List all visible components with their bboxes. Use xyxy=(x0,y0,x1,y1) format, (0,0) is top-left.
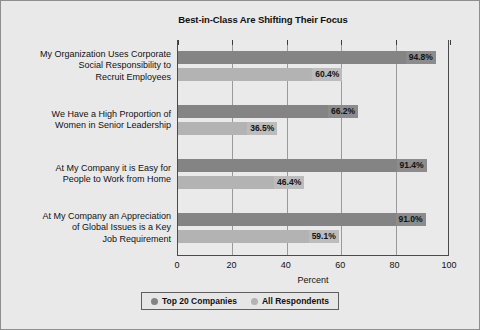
category-axis-labels: My Organization Uses Corporate Social Re… xyxy=(9,40,171,256)
bar-value-label: 59.1% xyxy=(309,230,339,243)
bar-row: 59.1% xyxy=(178,230,448,243)
x-tick-label: 80 xyxy=(390,260,400,270)
bar-value-label: 60.4% xyxy=(312,68,342,81)
legend-label: Top 20 Companies xyxy=(162,296,237,306)
legend-swatch-icon xyxy=(251,298,258,305)
x-tick-mark xyxy=(396,40,397,45)
x-tick-mark xyxy=(178,40,179,45)
plot-area: 94.8%60.4%66.2%36.5%91.4%46.4%91.0%59.1% xyxy=(177,40,449,256)
bar-value-label: 36.5% xyxy=(247,122,277,135)
category-label: My Organization Uses Corporate Social Re… xyxy=(9,49,171,84)
x-tick-label: 0 xyxy=(174,260,179,270)
category-label: At My Company an Appreciation of Global … xyxy=(9,211,171,246)
x-tick-mark xyxy=(287,40,288,45)
x-tick-label: 100 xyxy=(441,260,456,270)
x-tick-mark xyxy=(232,40,233,45)
x-tick-mark xyxy=(341,40,342,45)
bar-row: 91.0% xyxy=(178,213,448,226)
bar-value-label: 46.4% xyxy=(274,176,304,189)
chart-title: Best-in-Class Are Shifting Their Focus xyxy=(1,14,479,25)
bar-row: 60.4% xyxy=(178,68,448,81)
bar-value-label: 66.2% xyxy=(328,105,358,118)
x-tick-label: 60 xyxy=(335,260,345,270)
x-tick-label: 40 xyxy=(281,260,291,270)
x-tick-mark xyxy=(450,40,451,45)
legend-label: All Respondents xyxy=(262,296,329,306)
bar-row: 94.8% xyxy=(178,51,448,64)
category-label: At My Company it is Easy for People to W… xyxy=(9,163,171,186)
category-label: We Have a High Proportion of Women in Se… xyxy=(9,109,171,132)
legend-swatch-icon xyxy=(151,298,158,305)
bar-0-2 xyxy=(178,159,427,172)
bar-value-label: 91.0% xyxy=(395,213,425,226)
bar-value-label: 94.8% xyxy=(406,51,436,64)
x-axis-label: Percent xyxy=(177,275,449,285)
legend-entry-1[interactable]: All Respondents xyxy=(251,296,329,306)
legend-entry-0[interactable]: Top 20 Companies xyxy=(151,296,237,306)
bar-row: 36.5% xyxy=(178,122,448,135)
chart-figure: Best-in-Class Are Shifting Their Focus M… xyxy=(0,0,480,330)
chart-legend: Top 20 CompaniesAll Respondents xyxy=(141,292,339,310)
bar-row: 46.4% xyxy=(178,176,448,189)
bar-0-3 xyxy=(178,213,426,226)
x-axis-tick-labels: 020406080100 xyxy=(177,260,449,274)
x-tick-label: 20 xyxy=(226,260,236,270)
bar-value-label: 91.4% xyxy=(396,159,426,172)
bar-row: 66.2% xyxy=(178,105,448,118)
bar-0-0 xyxy=(178,51,436,64)
bar-row: 91.4% xyxy=(178,159,448,172)
